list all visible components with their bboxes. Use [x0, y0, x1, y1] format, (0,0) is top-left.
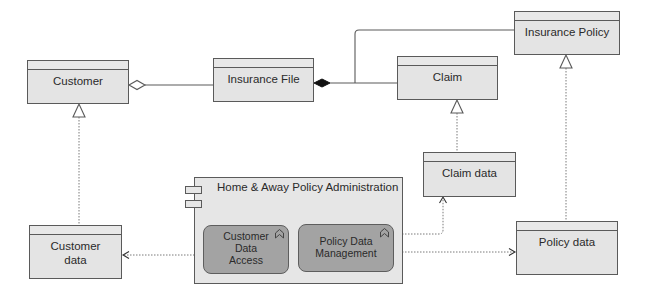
component-icon: [185, 186, 202, 194]
diagram-canvas: Customer Insurance File Claim Insurance …: [0, 0, 646, 299]
class-claim-data[interactable]: Claim data: [423, 152, 516, 197]
access-connector-policy-data: [393, 249, 515, 256]
access-arrowhead-icon: [509, 249, 515, 256]
access-connector-customer-data: [123, 252, 203, 259]
realization-connector-policy: [560, 55, 572, 221]
class-header: [515, 12, 619, 21]
class-claim[interactable]: Claim: [397, 56, 498, 100]
realization-triangle-icon: [560, 55, 572, 68]
class-header: [214, 59, 313, 68]
class-label-line: Customer: [30, 239, 121, 253]
function-label-line: Data: [204, 242, 288, 254]
component-icon: [185, 200, 202, 208]
class-label: Insurance File: [214, 68, 313, 86]
class-label: Customer: [28, 70, 128, 88]
class-label: Insurance Policy: [515, 21, 619, 39]
class-label-line: data: [30, 253, 121, 267]
function-label-line: Management: [299, 247, 393, 259]
realization-triangle-icon: [451, 100, 463, 113]
class-header: [398, 57, 497, 66]
class-header: [28, 61, 128, 70]
application-component[interactable]: Home & Away Policy Administration Custom…: [194, 177, 403, 284]
composition-diamond-icon: [314, 79, 330, 87]
class-customer-data[interactable]: Customer data: [29, 225, 122, 279]
realization-connector-customer: [73, 104, 85, 225]
class-label: Customer data: [30, 235, 121, 267]
class-label: Claim data: [424, 162, 515, 180]
class-header: [517, 222, 617, 231]
function-icon: [274, 228, 285, 239]
class-header: [30, 226, 121, 235]
function-policy-data-management[interactable]: Policy Data Management: [298, 224, 394, 272]
realization-connector-claim: [451, 100, 463, 152]
class-insurance-file[interactable]: Insurance File: [213, 58, 314, 102]
component-title: Home & Away Policy Administration: [217, 181, 398, 193]
class-label: Policy data: [517, 231, 617, 249]
function-icon: [379, 227, 390, 238]
class-customer[interactable]: Customer: [27, 60, 129, 104]
realization-triangle-icon: [73, 104, 85, 117]
aggregation-connector: [129, 81, 213, 90]
class-insurance-policy[interactable]: Insurance Policy: [514, 11, 620, 55]
aggregation-diamond-icon: [129, 81, 145, 90]
function-customer-data-access[interactable]: Customer Data Access: [203, 225, 289, 274]
class-policy-data[interactable]: Policy data: [516, 221, 618, 275]
function-label-line: Access: [204, 254, 288, 266]
class-header: [424, 153, 515, 162]
class-label: Claim: [398, 66, 497, 84]
